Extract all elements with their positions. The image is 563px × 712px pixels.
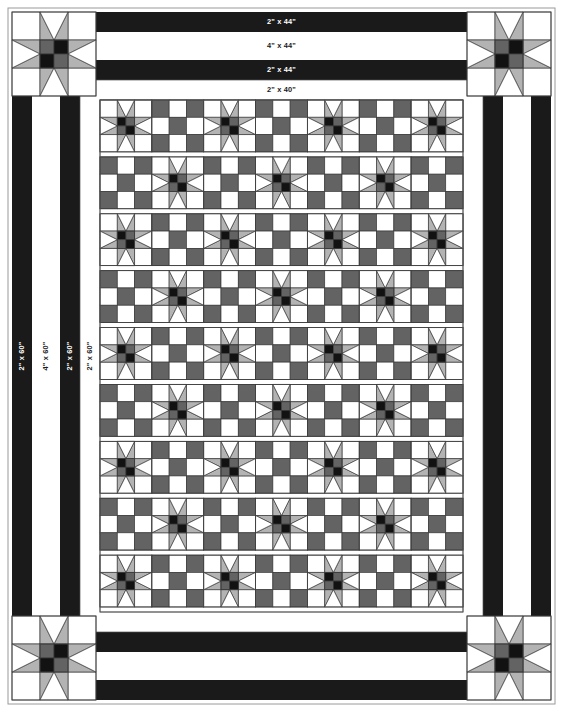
nine-patch-block-7-0-cell-1-1: [117, 516, 134, 533]
nine-patch-block-2-5-cell-2-0: [359, 248, 376, 265]
star-block-8-2-center-patch-0: [221, 572, 230, 581]
corner-block-bottom-right-center-patch-3: [509, 658, 523, 672]
nine-patch-block-3-0-cell-0-1: [117, 271, 134, 288]
star-block-1-3-center-patch-0: [273, 174, 282, 183]
nine-patch-block-7-0-cell-2-2: [135, 533, 152, 550]
nine-patch-block-1-6-cell-1-2: [446, 174, 463, 191]
nine-patch-block-3-6-cell-1-0: [411, 288, 428, 305]
nine-patch-block-6-1-cell-2-1: [169, 476, 186, 493]
nine-patch-block-2-3-cell-2-2: [290, 248, 307, 265]
star-block-8-2-center-patch-3: [230, 581, 239, 590]
nine-patch-block-6-1-cell-1-0: [152, 459, 169, 476]
nine-patch-block-7-4-cell-1-0: [307, 516, 324, 533]
nine-patch-block-1-0-cell-1-0: [100, 174, 117, 191]
star-block-2-6-center-patch-1: [437, 231, 446, 240]
nine-patch-block-7-2-cell-1-1: [221, 516, 238, 533]
star-block-0-0-center-patch-1: [126, 117, 135, 126]
nine-patch-block-5-0-cell-2-2: [135, 419, 152, 436]
nine-patch-block-2-1-cell-2-0: [152, 248, 169, 265]
corner-block-top-right-center-patch-2: [495, 54, 509, 68]
star-block-8-6-corner-2: [411, 590, 428, 607]
nine-patch-block-4-5-cell-2-2: [394, 362, 411, 379]
star-block-8-2-corner-1: [238, 555, 255, 572]
nine-patch-block-3-6-cell-0-1: [428, 271, 445, 288]
star-block-0-6-center-patch-0: [428, 117, 437, 126]
nine-patch-block-7-4-cell-1-1: [325, 516, 342, 533]
nine-patch-block-4-5-cell-2-0: [359, 362, 376, 379]
star-block-7-3-corner-2: [256, 533, 273, 550]
star-block-5-5-center-patch-2: [377, 410, 386, 419]
nine-patch-block-3-2-cell-1-2: [238, 288, 255, 305]
nine-patch-block-1-2-cell-1-1: [221, 174, 238, 191]
star-block-2-4-center-patch-0: [325, 231, 334, 240]
nine-patch-block-7-0-cell-0-2: [135, 498, 152, 515]
nine-patch-block-0-3-cell-0-0: [256, 100, 273, 117]
nine-patch-block-0-3-cell-2-1: [273, 135, 290, 152]
star-block-7-5-corner-3: [394, 533, 411, 550]
star-block-4-4-center-patch-2: [325, 353, 334, 362]
star-block-6-2-center-patch-2: [221, 467, 230, 476]
star-block-7-5-corner-1: [394, 498, 411, 515]
nine-patch-block-5-6-cell-1-2: [446, 402, 463, 419]
star-block-6-0-center-patch-1: [126, 459, 135, 468]
nine-patch-block-1-2-cell-2-2: [238, 191, 255, 208]
star-block-6-4-corner-0: [307, 441, 324, 458]
nine-patch-block-6-3-cell-0-0: [256, 441, 273, 458]
star-block-2-4-center-patch-1: [333, 231, 342, 240]
nine-patch-block-3-6-cell-0-0: [411, 271, 428, 288]
star-block-7-5-center-patch-0: [377, 516, 386, 525]
label-left-inner-white: 2" x 60": [85, 341, 94, 370]
nine-patch-block-4-1-cell-0-1: [169, 328, 186, 345]
star-block-4-2-corner-2: [204, 362, 221, 379]
star-block-5-3-corner-0: [256, 384, 273, 401]
star-block-1-5-corner-1: [394, 157, 411, 174]
nine-patch-block-2-1-cell-2-2: [186, 248, 203, 265]
nine-patch-block-4-1-cell-2-0: [152, 362, 169, 379]
nine-patch-block-2-5-cell-1-0: [359, 231, 376, 248]
nine-patch-block-5-4-cell-0-1: [325, 384, 342, 401]
nine-patch-block-6-3-cell-0-2: [290, 441, 307, 458]
star-block-3-3-center-patch-2: [273, 297, 282, 306]
nine-patch-block-0-5-cell-0-2: [394, 100, 411, 117]
nine-patch-block-3-2-cell-2-2: [238, 305, 255, 322]
star-block-4-4-corner-2: [307, 362, 324, 379]
nine-patch-block-5-4-cell-2-2: [342, 419, 359, 436]
star-block-7-3-center-patch-1: [282, 516, 291, 525]
nine-patch-block-5-0-cell-1-0: [100, 402, 117, 419]
corner-block-top-right-center-patch-1: [509, 40, 523, 54]
star-block-4-0-center-patch-3: [126, 353, 135, 362]
corner-block-bottom-right-corner-2: [467, 672, 495, 700]
nine-patch-block-2-5-cell-2-1: [377, 248, 394, 265]
corner-block-bottom-right-center-patch-0: [495, 644, 509, 658]
nine-patch-block-1-6-cell-2-1: [428, 191, 445, 208]
star-block-6-2-center-patch-0: [221, 459, 230, 468]
star-block-8-2-center-patch-2: [221, 581, 230, 590]
star-block-0-2-corner-3: [238, 135, 255, 152]
star-block-8-2-corner-3: [238, 590, 255, 607]
nine-patch-block-2-5-cell-1-1: [377, 231, 394, 248]
star-block-1-3-center-patch-3: [282, 183, 291, 192]
nine-patch-block-6-1-cell-0-2: [186, 441, 203, 458]
nine-patch-block-1-6-cell-1-1: [428, 174, 445, 191]
corner-block-bottom-left-center-patch-3: [54, 658, 68, 672]
star-block-8-2-corner-2: [204, 590, 221, 607]
nine-patch-block-0-5-cell-0-1: [377, 100, 394, 117]
corner-block-top-left-center-patch-1: [54, 40, 68, 54]
nine-patch-block-7-2-cell-1-2: [238, 516, 255, 533]
nine-patch-block-5-4-cell-1-1: [325, 402, 342, 419]
star-block-6-4-center-patch-1: [333, 459, 342, 468]
nine-patch-block-4-5-cell-0-2: [394, 328, 411, 345]
nine-patch-block-7-6-cell-0-0: [411, 498, 428, 515]
nine-patch-block-7-0-cell-2-0: [100, 533, 117, 550]
star-block-6-2-center-patch-3: [230, 467, 239, 476]
star-block-3-3-corner-2: [256, 305, 273, 322]
star-block-1-1-center-patch-2: [169, 183, 178, 192]
nine-patch-block-1-0-cell-0-1: [117, 157, 134, 174]
nine-patch-block-1-0-cell-1-2: [135, 174, 152, 191]
nine-patch-block-5-4-cell-1-2: [342, 402, 359, 419]
star-block-2-4-corner-1: [342, 214, 359, 231]
star-block-7-5-corner-0: [359, 498, 376, 515]
star-block-1-5-corner-3: [394, 191, 411, 208]
nine-patch-block-3-2-cell-2-1: [221, 305, 238, 322]
nine-patch-block-5-6-cell-2-1: [428, 419, 445, 436]
